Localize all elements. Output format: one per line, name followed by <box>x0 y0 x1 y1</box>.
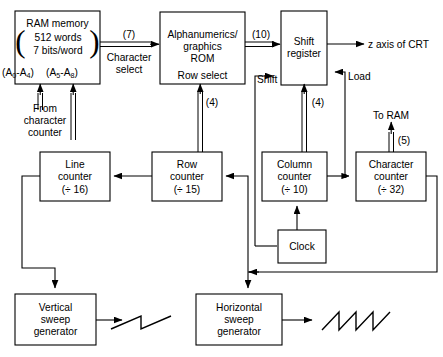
row-counter-label-line2: counter <box>170 171 205 182</box>
bus-width-4-rom-label: (4) <box>206 97 218 108</box>
ram-memory-label-line1: RAM memory <box>26 18 89 29</box>
row-counter-divisor: (÷ 15) <box>174 184 201 195</box>
diagram-svg: RAM memory ( ) 512 words 7 bits/word (A0… <box>0 0 443 357</box>
clock-label: Clock <box>289 241 315 252</box>
horizontal-sweep-waveform <box>322 312 390 330</box>
block-line-counter[interactable]: Line counter (÷ 16) <box>40 152 110 201</box>
line-counter-divisor: (÷ 16) <box>62 184 89 195</box>
column-counter-divisor: (÷ 10) <box>281 184 308 195</box>
wire-column-counter-to-shift-register-bus4 <box>302 84 307 152</box>
character-counter-divisor: (÷ 32) <box>378 184 405 195</box>
bus-width-7-label: (7) <box>123 29 135 40</box>
wire-feedback-to-horizontal-sweep <box>248 272 259 288</box>
block-horizontal-sweep-generator[interactable]: Horizontal sweep generator <box>196 294 282 345</box>
bus-width-10-label: (10) <box>252 29 270 40</box>
block-row-counter[interactable]: Row counter (÷ 15) <box>152 152 222 201</box>
block-column-counter[interactable]: Column counter (÷ 10) <box>262 152 327 201</box>
character-counter-label-line2: counter <box>374 171 409 182</box>
row-counter-label-line1: Row <box>177 159 198 170</box>
vertical-sweep-label-line3: generator <box>34 326 78 337</box>
ram-left-paren: ( <box>15 24 25 59</box>
ram-right-paren: ) <box>89 24 99 59</box>
block-vertical-sweep-generator[interactable]: Vertical sweep generator <box>15 294 96 345</box>
character-select-label-line1: Character <box>107 52 152 63</box>
bus-width-4-shift-label: (4) <box>312 97 324 108</box>
bus-width-5-label: (5) <box>398 135 410 146</box>
wire-feedback-to-row-counter <box>226 176 248 272</box>
wire-rom-to-shift-register <box>245 42 280 47</box>
horizontal-sweep-label-line3: generator <box>217 326 261 337</box>
character-counter-label-line1: Character <box>369 159 414 170</box>
line-counter-label-line2: counter <box>58 171 93 182</box>
rom-label-line3: ROM <box>191 53 215 64</box>
wire-column-counter-to-character-counter <box>327 174 349 178</box>
block-diagram-canvas: RAM memory ( ) 512 words 7 bits/word (A0… <box>0 0 443 357</box>
rom-label-line2: graphics <box>183 41 222 52</box>
shift-register-label-line1: Shift <box>294 36 315 47</box>
block-clock[interactable]: Clock <box>278 230 326 263</box>
block-ram-memory[interactable]: RAM memory ( ) 512 words 7 bits/word (A0… <box>2 11 100 84</box>
from-character-counter-label-line2: character <box>24 115 67 126</box>
to-ram-label: To RAM <box>373 110 409 121</box>
horizontal-sweep-label-line2: sweep <box>224 314 254 325</box>
block-alphanumerics-graphics-rom[interactable]: Alphanumerics/ graphics ROM Row select <box>160 12 245 84</box>
junction-dot-load <box>343 174 347 178</box>
line-counter-label-line1: Line <box>65 159 85 170</box>
rom-label-line1: Alphanumerics/ <box>167 29 237 40</box>
wire-ram-to-rom <box>100 42 159 47</box>
shift-register-label-line2: register <box>287 48 322 59</box>
wire-row-counter-to-rom-bus4 <box>198 84 203 152</box>
block-character-counter[interactable]: Character counter (÷ 32) <box>356 152 426 201</box>
ram-memory-label-line3: 7 bits/word <box>33 45 83 56</box>
z-axis-of-crt-label: z axis of CRT <box>368 39 429 50</box>
vertical-sweep-waveform <box>111 316 171 329</box>
load-signal-label: Load <box>348 71 371 82</box>
wire-character-counter-to-ram-bus5 <box>389 122 394 152</box>
ram-memory-label-line2: 512 words <box>34 32 81 43</box>
from-character-counter-label-line3: counter <box>28 127 63 138</box>
vertical-sweep-label-line2: sweep <box>41 314 71 325</box>
block-shift-register[interactable]: Shift register <box>281 11 327 85</box>
vertical-sweep-label-line1: Vertical <box>39 302 72 313</box>
from-character-counter-label-line1: From <box>33 103 57 114</box>
rom-row-select-label: Row select <box>178 70 228 81</box>
shift-signal-label: Shift <box>257 74 278 85</box>
character-select-label-line2: select <box>116 64 143 75</box>
column-counter-label-line2: counter <box>278 171 313 182</box>
horizontal-sweep-label-line1: Horizontal <box>216 302 262 313</box>
column-counter-label-line1: Column <box>277 159 312 170</box>
